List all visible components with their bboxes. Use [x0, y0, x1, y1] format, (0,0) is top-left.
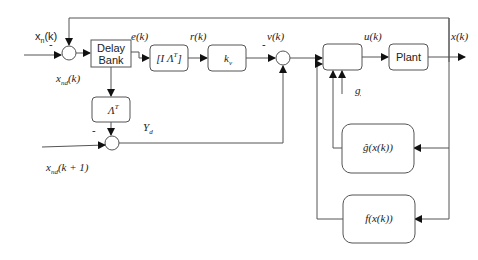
- xn-label: xn(k): [35, 30, 57, 44]
- e-label: e(k): [131, 30, 148, 43]
- ghat-to-controller-line: [333, 71, 342, 148]
- g-label: g: [355, 84, 361, 96]
- delay-bank-label-2: Bank: [98, 54, 124, 66]
- xn-minus-sign: -: [49, 38, 53, 50]
- xnd-label: xnd(k): [55, 72, 80, 87]
- sum3-minus-sign: -: [92, 124, 96, 136]
- controller-block: [323, 44, 362, 70]
- yd-label: Yd: [143, 121, 153, 136]
- v-label: v(k): [267, 30, 284, 43]
- x-label: x(k): [450, 30, 468, 43]
- xnd-next-input-line: [42, 145, 105, 147]
- plant-label: Plant: [396, 51, 421, 63]
- f-label: f(x(k)): [365, 212, 393, 225]
- f-to-controller-line: [317, 64, 343, 219]
- v-minus-sign: -: [262, 38, 266, 50]
- block-diagram: Delay Bank [I ΛT] kv Plant ĝ(x(k)) f(x(k…: [0, 0, 478, 260]
- delay-to-ilambda-line: [131, 52, 149, 58]
- g-hat-label: ĝ(x(k)): [363, 141, 393, 154]
- delay-bank-label-1: Delay: [97, 42, 126, 54]
- summing-junction-3: [105, 136, 119, 150]
- r-label: r(k): [190, 30, 207, 43]
- i-lambda-label: [I ΛT]: [156, 51, 182, 64]
- summing-junction-1: [62, 46, 76, 60]
- xnd-next-label: xnd(k + 1): [45, 161, 89, 176]
- summing-junction-2: [276, 51, 290, 65]
- u-label: u(k): [364, 30, 382, 43]
